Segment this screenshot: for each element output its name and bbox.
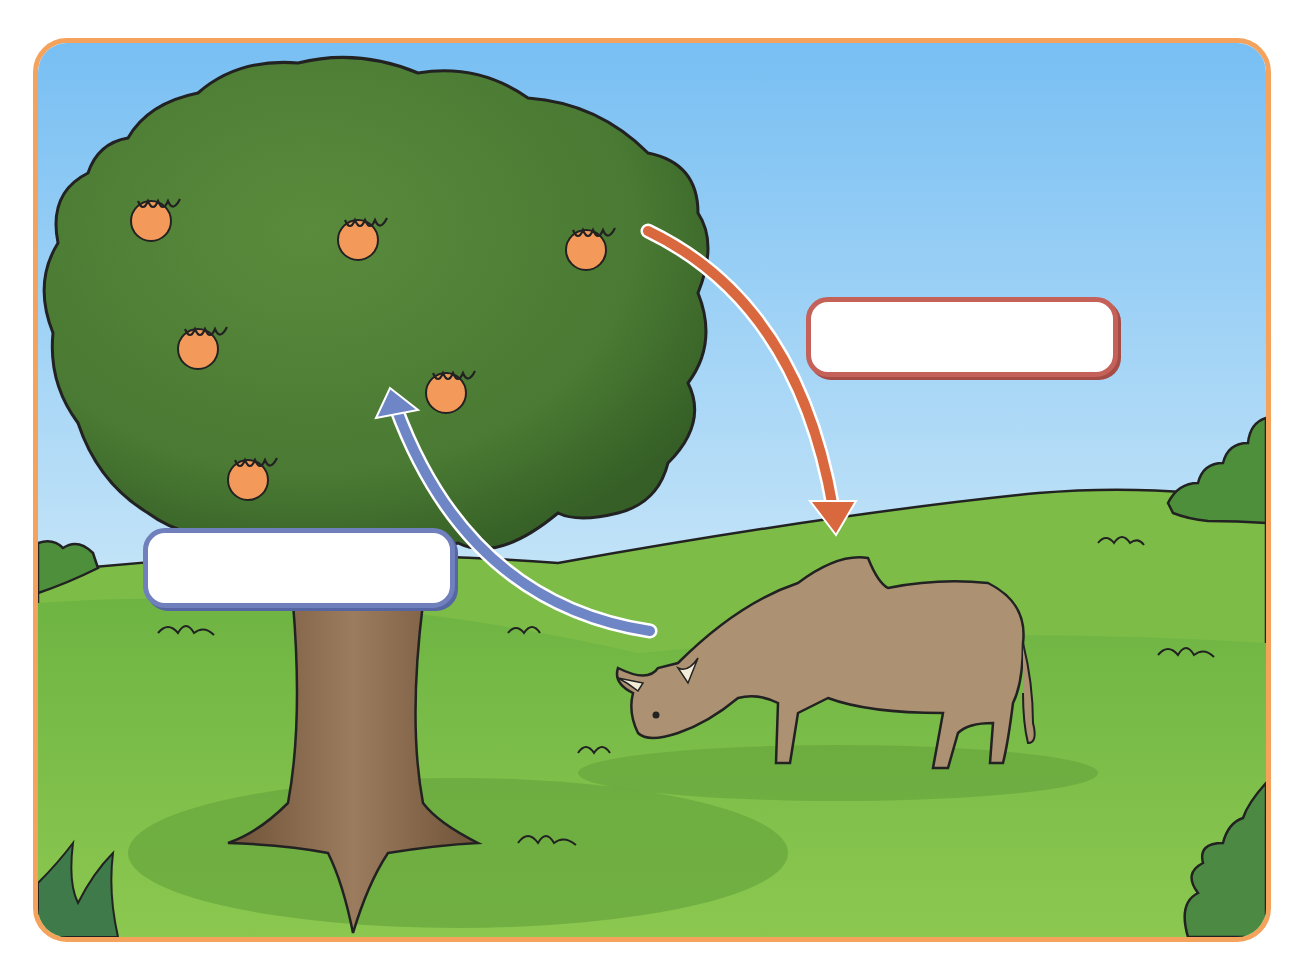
scene (38, 43, 1266, 937)
diagram-frame (33, 38, 1271, 942)
tree-shadow (128, 778, 788, 928)
cow-shadow (578, 745, 1098, 801)
label-box-top-right[interactable] (806, 297, 1118, 377)
label-box-bottom-left[interactable] (143, 528, 455, 608)
cow-eye (653, 712, 660, 719)
tree-canopy (44, 57, 708, 553)
